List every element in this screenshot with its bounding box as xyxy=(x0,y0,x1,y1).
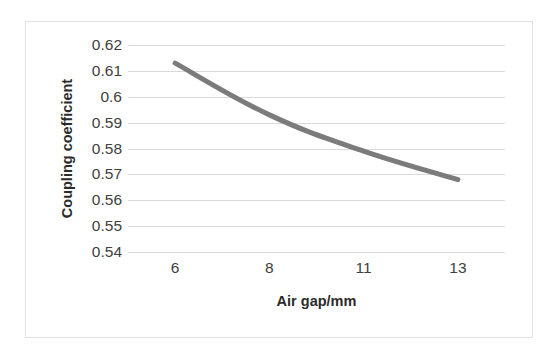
y-axis-tick-labels: 0.620.610.60.590.580.570.560.550.54 xyxy=(56,45,122,252)
plot-area xyxy=(128,45,505,252)
x-axis-tick-labels: 681113 xyxy=(128,258,505,280)
y-tick-label: 0.59 xyxy=(58,115,122,131)
y-tick-label: 0.54 xyxy=(58,244,122,260)
y-tick-label: 0.55 xyxy=(58,218,122,234)
y-tick-label: 0.58 xyxy=(58,141,122,157)
line-series xyxy=(128,45,505,252)
x-tick-label: 13 xyxy=(428,258,488,278)
y-tick-label: 0.6 xyxy=(58,89,122,105)
x-tick-label: 6 xyxy=(145,258,205,278)
chart-figure: Coupling coefficient 0.620.610.60.590.58… xyxy=(0,0,557,359)
y-tick-label: 0.62 xyxy=(58,37,122,53)
y-tick-label: 0.61 xyxy=(58,63,122,79)
y-tick-label: 0.57 xyxy=(58,167,122,183)
y-tick-label: 0.56 xyxy=(58,192,122,208)
gridline xyxy=(128,252,505,253)
series-path-coupling-coefficient xyxy=(175,63,458,179)
x-axis-title: Air gap/mm xyxy=(128,293,505,309)
x-tick-label: 8 xyxy=(239,258,299,278)
x-tick-label: 11 xyxy=(334,258,394,278)
